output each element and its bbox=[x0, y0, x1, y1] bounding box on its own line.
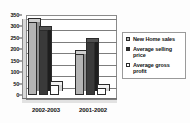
bar-group bbox=[75, 15, 117, 95]
legend-item: New Home sales bbox=[126, 36, 183, 43]
x-axis-tick-label: 2002-2003 bbox=[32, 107, 60, 113]
bar-face bbox=[50, 85, 59, 95]
y-axis-tick-label: 150 bbox=[10, 58, 19, 64]
legend-swatch-icon bbox=[126, 47, 130, 51]
bar bbox=[28, 22, 37, 95]
legend-swatch-icon bbox=[126, 63, 130, 67]
y-axis-tick-label: 200 bbox=[10, 46, 19, 52]
chart-legend: New Home salesAverage selling priceAvera… bbox=[122, 32, 186, 79]
bar-face bbox=[39, 30, 48, 95]
bar-face bbox=[28, 22, 37, 95]
bar-side bbox=[95, 38, 99, 91]
bar-chart: 050100150200250300350 2002-20032001-2002… bbox=[0, 0, 190, 123]
bar-face bbox=[97, 88, 106, 95]
bar bbox=[39, 30, 48, 95]
y-axis-tick-label: 350 bbox=[10, 12, 19, 18]
gridline bbox=[26, 99, 117, 100]
bar bbox=[50, 85, 59, 95]
bars-layer bbox=[26, 15, 117, 99]
legend-item-label: Average gross profit bbox=[133, 62, 183, 75]
y-axis: 050100150200250300350 bbox=[0, 11, 22, 99]
bar-face bbox=[75, 54, 84, 95]
x-axis: 2002-20032001-2002 bbox=[22, 104, 117, 118]
bar-face bbox=[86, 42, 95, 95]
bar bbox=[75, 54, 84, 95]
legend-item-label: New Home sales bbox=[133, 36, 175, 43]
y-axis-tick-label: 300 bbox=[10, 23, 19, 29]
y-axis-tick-label: 100 bbox=[10, 69, 19, 75]
legend-item-label: Average selling price bbox=[133, 46, 183, 59]
legend-item: Average selling price bbox=[126, 46, 183, 59]
bar bbox=[86, 42, 95, 95]
bar-group bbox=[28, 15, 70, 95]
bar bbox=[97, 88, 106, 95]
y-axis-tick-label: 250 bbox=[10, 35, 19, 41]
legend-swatch-icon bbox=[126, 37, 130, 41]
legend-item: Average gross profit bbox=[126, 62, 183, 75]
x-axis-tick-label: 2001-2002 bbox=[79, 107, 107, 113]
